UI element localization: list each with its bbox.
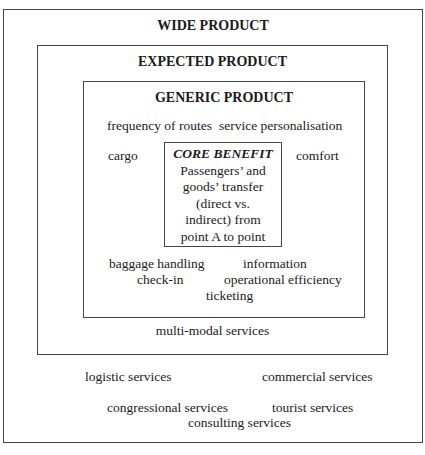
core-benefit-line-2: goods’ transfer <box>165 179 281 196</box>
item-consulting-services: consulting services <box>188 415 291 431</box>
wide-product-title: WIDE PRODUCT <box>4 18 422 34</box>
item-frequency-of-routes: frequency of routes <box>107 118 212 134</box>
item-service-personalisation: service personalisation <box>219 118 342 134</box>
item-congressional-services: congressional services <box>107 400 228 416</box>
core-benefit-line-3: (direct vs. <box>165 196 281 213</box>
item-tourist-services: tourist services <box>272 400 353 416</box>
item-check-in: check-in <box>137 272 183 288</box>
core-benefit-line-1: Passengers’ and <box>165 163 281 180</box>
item-cargo: cargo <box>108 148 138 164</box>
expected-product-title: EXPECTED PRODUCT <box>38 54 387 70</box>
item-baggage-handling: baggage handling <box>109 256 205 272</box>
core-benefit-line-4: indirect) from <box>165 212 281 229</box>
item-ticketing: ticketing <box>206 288 253 304</box>
item-comfort: comfort <box>296 148 339 164</box>
item-logistic-services: logistic services <box>85 369 172 385</box>
multi-modal-services: multi-modal services <box>38 323 387 339</box>
item-commercial-services: commercial services <box>262 369 373 385</box>
core-benefit-title: CORE BENEFIT <box>165 146 281 163</box>
item-operational-efficiency: operational efficiency <box>224 272 342 288</box>
generic-product-title: GENERIC PRODUCT <box>84 90 364 106</box>
core-benefit-box: CORE BENEFIT Passengers’ and goods’ tran… <box>164 142 282 247</box>
item-information: information <box>243 256 307 272</box>
core-benefit-line-5: point A to point <box>165 229 281 246</box>
